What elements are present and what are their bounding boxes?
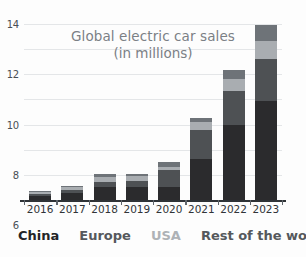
bar-2022[interactable]	[223, 70, 245, 200]
x-axis-label-2023: 2023	[253, 203, 280, 215]
bar-segment-europe[interactable]	[126, 181, 148, 188]
bar-segment-usa[interactable]	[190, 122, 212, 130]
bar-segment-usa[interactable]	[223, 79, 245, 92]
bar-segment-china[interactable]	[190, 159, 212, 200]
y-axis-tick-label: 14	[7, 19, 19, 30]
bar-segment-europe[interactable]	[158, 170, 180, 187]
bar-2019[interactable]	[126, 174, 148, 200]
chart-root: 02468101214 Global electric car sales (i…	[0, 0, 306, 257]
x-axis-label-2016: 2016	[27, 203, 54, 215]
x-axis-label-2020: 2020	[156, 203, 183, 215]
bar-2018[interactable]	[94, 174, 116, 200]
x-tick-mark	[282, 200, 283, 205]
x-axis-label-2021: 2021	[188, 203, 215, 215]
x-axis-labels: 20162017201820192020202120222023	[24, 203, 282, 219]
bar-segment-china[interactable]	[94, 187, 116, 200]
bar-segment-europe[interactable]	[190, 130, 212, 159]
gridline: 12	[24, 49, 282, 50]
bar-2016[interactable]	[29, 191, 51, 200]
y-axis-tick-label: 12	[7, 69, 19, 80]
bar-segment-china[interactable]	[158, 187, 180, 200]
bar-segment-china[interactable]	[61, 193, 83, 200]
bar-segment-rest-of-the-world[interactable]	[223, 70, 245, 79]
y-axis-tick-label: 10	[7, 119, 19, 130]
chart-legend: China Europe USA Rest of the world	[12, 224, 294, 246]
bar-2023[interactable]	[255, 25, 277, 200]
plot-area: 02468101214	[24, 24, 282, 200]
bar-segment-europe[interactable]	[223, 91, 245, 125]
legend-item-china[interactable]: China	[18, 228, 59, 243]
bar-segment-rest-of-the-world[interactable]	[255, 25, 277, 41]
y-axis-tick-label: 8	[13, 169, 19, 180]
x-axis-label-2019: 2019	[124, 203, 151, 215]
bar-2017[interactable]	[61, 186, 83, 200]
bar-2021[interactable]	[190, 118, 212, 200]
bar-segment-usa[interactable]	[255, 41, 277, 59]
bar-segment-china[interactable]	[223, 125, 245, 200]
bar-segment-china[interactable]	[255, 101, 277, 200]
bar-segment-europe[interactable]	[255, 59, 277, 101]
gridline: 14	[24, 24, 282, 25]
x-axis-label-2022: 2022	[220, 203, 247, 215]
x-axis-label-2017: 2017	[59, 203, 86, 215]
legend-item-usa[interactable]: USA	[151, 228, 181, 243]
bar-segment-china[interactable]	[126, 187, 148, 200]
bar-2020[interactable]	[158, 162, 180, 200]
x-axis-label-2018: 2018	[91, 203, 118, 215]
legend-item-rest-of-the-world[interactable]: Rest of the world	[201, 228, 306, 243]
legend-item-europe[interactable]: Europe	[79, 228, 131, 243]
